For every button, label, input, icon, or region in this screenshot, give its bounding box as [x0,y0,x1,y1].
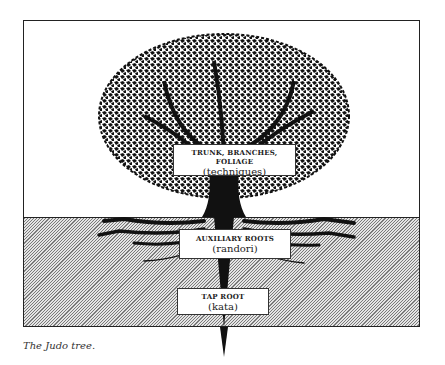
tap-root-tip [0,0,445,365]
figure-caption: The Judo tree. [23,340,95,351]
